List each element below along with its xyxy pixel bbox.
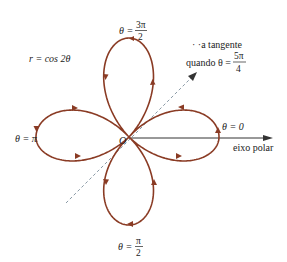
arrow-icon: [176, 153, 182, 159]
equation-label: r = cos 2θ: [29, 53, 70, 64]
tangent-arrowhead-icon: [188, 72, 197, 81]
arrow-icon: [75, 153, 81, 159]
svg-text:4: 4: [236, 64, 241, 74]
arrow-icon: [129, 36, 134, 41]
label-tangent: · ·a tangente quando θ = 5π 4: [186, 39, 246, 74]
label-origin: O: [119, 135, 126, 146]
label-theta-pi: θ = π: [15, 133, 38, 144]
svg-text:2: 2: [136, 248, 141, 258]
svg-text:· ·a tangente: · ·a tangente: [192, 39, 243, 50]
polar-rose-diagram: r = cos 2θ θ = 3π 2 · ·a tangente quando…: [0, 0, 287, 262]
svg-text:θ =: θ =: [118, 241, 132, 252]
label-polar-axis: eixo polar: [233, 142, 274, 153]
svg-text:θ =: θ =: [119, 25, 133, 36]
label-theta-0: θ = 0: [222, 121, 244, 132]
arrow-icon: [150, 79, 156, 85]
svg-text:2: 2: [138, 32, 143, 42]
svg-text:quando θ =: quando θ =: [186, 57, 231, 68]
arrow-icon: [127, 221, 133, 227]
arrow-icon: [215, 127, 221, 133]
svg-text:5π: 5π: [234, 51, 244, 61]
svg-text:π: π: [136, 236, 141, 246]
tangent-line: [66, 76, 193, 203]
polar-axis-arrowhead-icon: [263, 135, 273, 141]
arrow-icon: [178, 105, 184, 111]
label-theta-pi-2: θ = π 2: [118, 236, 143, 258]
arrow-icon: [34, 126, 40, 132]
svg-text:3π: 3π: [136, 20, 146, 30]
